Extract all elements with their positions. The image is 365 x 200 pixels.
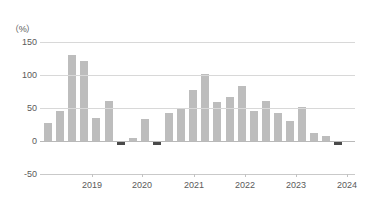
y-tick-label-0: 0 — [32, 137, 37, 146]
y-tick-label-50: 50 — [27, 104, 37, 113]
bar — [44, 123, 52, 141]
x-tick-2020 — [142, 174, 143, 177]
x-tick-label-2020: 2020 — [132, 180, 152, 190]
plot-area — [40, 42, 355, 174]
bar — [177, 109, 185, 141]
x-tick-label-2024: 2024 — [337, 180, 357, 190]
x-tick-2021 — [194, 174, 195, 177]
x-tick-2019 — [92, 174, 93, 177]
x-tick-2024 — [347, 174, 348, 177]
bar — [56, 111, 64, 141]
gridline-150 — [40, 42, 355, 43]
y-tick-label-100: 100 — [22, 71, 37, 80]
x-axis: 201920202021202220232024 — [0, 176, 365, 196]
bar — [80, 61, 88, 141]
bar — [286, 121, 294, 141]
x-tick-2022 — [245, 174, 246, 177]
bar — [298, 107, 306, 141]
gridline-0 — [40, 141, 355, 142]
y-tick-label-150: 150 — [22, 38, 37, 47]
x-tick-label-2021: 2021 — [184, 180, 204, 190]
gridline--50 — [40, 174, 355, 175]
bar — [226, 97, 234, 141]
bar — [189, 90, 197, 141]
bar-chart: （%） -50050100150 20192020202120222023202… — [0, 0, 365, 200]
gridline-100 — [40, 75, 355, 76]
bar — [310, 133, 318, 141]
bar — [141, 119, 149, 141]
bar — [68, 55, 76, 141]
bar — [250, 111, 258, 141]
x-tick-2023 — [296, 174, 297, 177]
bar — [238, 86, 246, 141]
bar — [92, 118, 100, 141]
x-tick-label-2023: 2023 — [286, 180, 306, 190]
gridline-50 — [40, 108, 355, 109]
x-tick-label-2022: 2022 — [235, 180, 255, 190]
bar — [274, 113, 282, 141]
bar — [165, 113, 173, 141]
x-tick-label-2019: 2019 — [82, 180, 102, 190]
y-axis: -50050100150 — [0, 0, 37, 200]
